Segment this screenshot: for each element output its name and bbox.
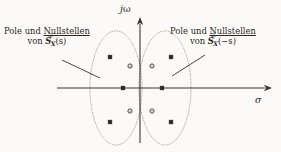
imaginary-axis-label: jω	[120, 3, 131, 14]
annotation-right: Pole und Nullstellen von ~~SX(−s)	[170, 27, 256, 48]
annotation-right-line1-pre: Pole und	[170, 26, 209, 36]
zero-marker-center	[151, 110, 152, 111]
annotation-left-line2-pre: von	[27, 36, 45, 46]
double-tilde-accent-icon: ~~	[48, 32, 53, 38]
annotation-right-symbol: ~~SX	[208, 37, 218, 47]
annotation-left-symbol-arg: (s)	[56, 36, 67, 46]
imaginary-axis-label-omega: ω	[123, 3, 131, 14]
leader-right	[172, 55, 205, 76]
pole-marker	[169, 120, 173, 124]
annotation-left-line1-pre: Pole und	[4, 26, 43, 36]
pole-marker	[108, 55, 112, 59]
pole-marker	[160, 86, 164, 90]
zero-marker-center	[129, 65, 130, 66]
pole-marker	[108, 120, 112, 124]
annotation-left: Pole und Nullstellen von ~~SX(s)	[4, 27, 90, 48]
imaginary-axis-arrowhead-icon	[137, 17, 143, 25]
annotation-right-line1-underlined: Nullstellen	[209, 26, 255, 36]
zero-marker-center	[151, 65, 152, 66]
annotation-right-line2: von ~~SX(−s)	[170, 37, 256, 47]
annotation-right-line2-pre: von	[190, 36, 208, 46]
figure-canvas	[0, 0, 281, 152]
pole-marker	[169, 55, 173, 59]
annotation-right-symbol-arg: (−s)	[218, 36, 236, 46]
zero-marker-center	[129, 110, 130, 111]
pole-marker	[121, 86, 125, 90]
annotation-left-symbol: ~~SX	[45, 37, 55, 47]
double-tilde-accent-icon: ~~	[210, 32, 215, 38]
real-axis-label: σ	[255, 94, 261, 105]
pole-zero-figure: Pole und Nullstellen von ~~SX(s) Pole un…	[0, 0, 281, 152]
real-axis-arrowhead-icon	[264, 85, 272, 91]
leader-left	[62, 60, 100, 78]
annotation-left-line2: von ~~SX(s)	[4, 37, 90, 47]
